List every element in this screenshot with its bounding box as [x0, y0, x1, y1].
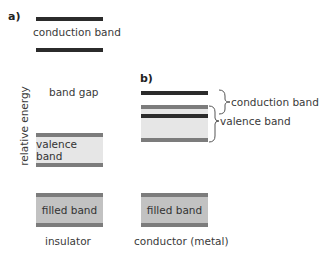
- valence-band-bottom-stripe: [141, 138, 208, 142]
- band-gap-label: band gap: [49, 86, 99, 98]
- valence-band-top-stripe: [141, 105, 208, 109]
- conductor-conduction-band-top-edge: [141, 91, 208, 95]
- conductor-caption: conductor (metal): [134, 235, 229, 247]
- valence-band-brace-icon: [209, 106, 219, 142]
- conductor-valence-band-label: valence band: [220, 115, 291, 127]
- insulator-valence-band: valence band: [36, 133, 103, 167]
- conductor-filled-band: filled band: [141, 193, 208, 227]
- conductor-filled-band-label: filled band: [147, 204, 202, 216]
- insulator-valence-band-label: valence band: [36, 138, 103, 162]
- relative-energy-axis-label: relative energy: [18, 86, 30, 166]
- insulator-conduction-band-bottom-edge: [36, 48, 103, 52]
- panel-b-label: b): [140, 72, 153, 85]
- conduction-band-bottom-edge: [141, 114, 208, 118]
- panel-a-label: a): [8, 10, 20, 23]
- conduction-band-brace-icon: [219, 90, 230, 114]
- insulator-caption: insulator: [45, 235, 91, 247]
- conductor-overlapping-bands: [141, 105, 208, 142]
- insulator-filled-band: filled band: [36, 193, 103, 227]
- insulator-filled-band-label: filled band: [42, 204, 97, 216]
- insulator-conduction-band-label: conduction band: [33, 26, 121, 38]
- conductor-conduction-band-label: conduction band: [231, 96, 319, 108]
- insulator-conduction-band-top-edge: [36, 17, 103, 21]
